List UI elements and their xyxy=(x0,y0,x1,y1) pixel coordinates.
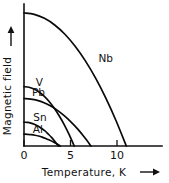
x-tick-label-10: 10 xyxy=(110,149,124,162)
curve-label-sn: Sn xyxy=(33,111,46,123)
curve-label-nb: Nb xyxy=(98,52,113,64)
x-tick-label-5: 5 xyxy=(67,149,74,162)
x-tick-label-0: 0 xyxy=(21,149,28,162)
superconductor-critical-field-chart: 0 5 10 Nb V Pb Sn Al Temperature, K Magn… xyxy=(0,0,169,183)
curve-label-al: Al xyxy=(33,123,43,135)
x-axis-arrow-icon xyxy=(153,169,160,176)
chart-canvas: 0 5 10 Nb V Pb Sn Al Temperature, K Magn… xyxy=(0,0,169,183)
curve-label-pb: Pb xyxy=(32,86,45,98)
y-axis-arrow-icon xyxy=(8,26,15,33)
y-axis-title: Magnetic field xyxy=(1,57,13,135)
x-axis-title: Temperature, K xyxy=(41,166,127,178)
